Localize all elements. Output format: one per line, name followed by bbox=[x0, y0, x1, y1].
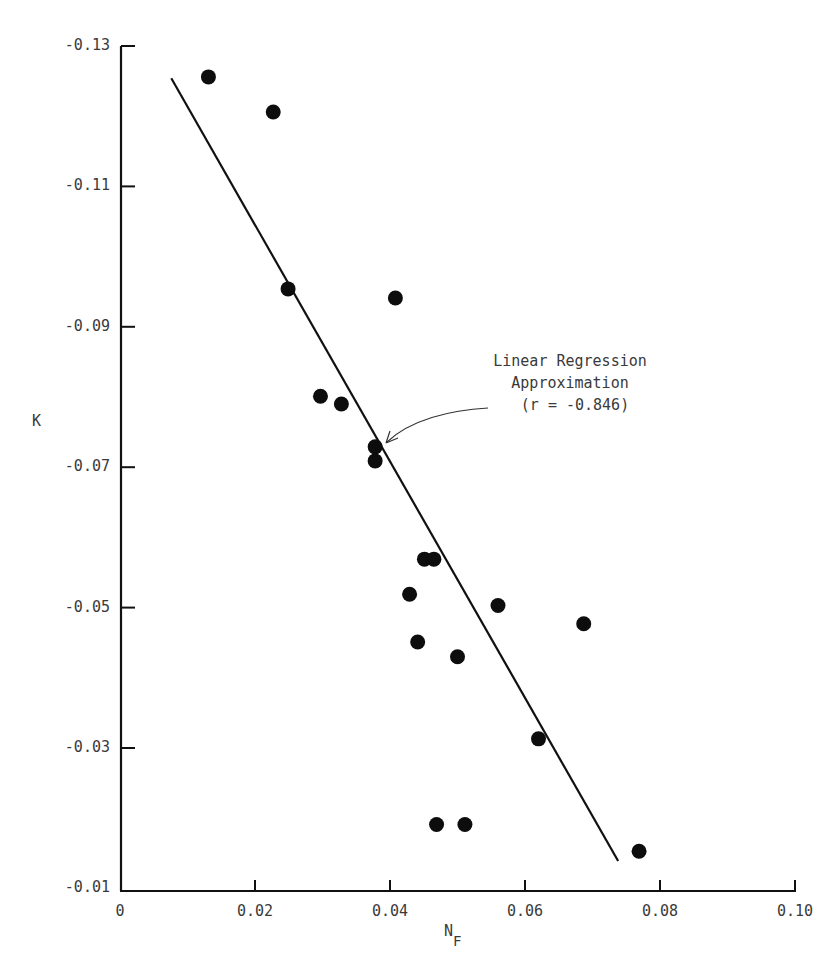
x-tick-label: 0 bbox=[90, 902, 150, 920]
data-point bbox=[368, 453, 383, 468]
data-point bbox=[450, 649, 465, 664]
data-point bbox=[531, 731, 546, 746]
x-tick-label: 0.02 bbox=[225, 902, 285, 920]
data-point bbox=[368, 439, 383, 454]
data-point bbox=[266, 104, 281, 119]
y-tick-label: -0.03 bbox=[30, 738, 110, 756]
data-point bbox=[426, 552, 441, 567]
regression-line-segment bbox=[171, 78, 618, 861]
y-tick-label: -0.07 bbox=[30, 457, 110, 475]
data-points bbox=[201, 69, 647, 858]
data-point bbox=[632, 844, 647, 859]
annotation-line-3: (r = -0.846) bbox=[470, 394, 670, 416]
x-axis-title: NF bbox=[444, 922, 461, 940]
y-tick-label: -0.05 bbox=[30, 598, 110, 616]
plot-area bbox=[0, 0, 832, 978]
x-axis-title-main: N bbox=[444, 922, 453, 940]
y-axis-title: K bbox=[32, 412, 41, 430]
data-point bbox=[313, 389, 328, 404]
y-tick-label: -0.13 bbox=[30, 36, 110, 54]
x-tick-label: 0.04 bbox=[360, 902, 420, 920]
scatter-chart: -0.13-0.11-0.09-0.07-0.05-0.03-0.01 00.0… bbox=[0, 0, 832, 978]
data-point bbox=[410, 634, 425, 649]
x-tick-label: 0.06 bbox=[495, 902, 555, 920]
y-tick-label: -0.01 bbox=[30, 878, 110, 896]
regression-annotation: Linear Regression Approximation (r = -0.… bbox=[470, 350, 670, 416]
data-point bbox=[388, 291, 403, 306]
x-axis-title-sub: F bbox=[453, 933, 461, 949]
x-tick-label: 0.10 bbox=[765, 902, 825, 920]
data-point bbox=[457, 817, 472, 832]
y-tick-label: -0.09 bbox=[30, 317, 110, 335]
data-point bbox=[281, 281, 296, 296]
data-point bbox=[402, 587, 417, 602]
x-tick-label: 0.08 bbox=[630, 902, 690, 920]
x-axis-ticks bbox=[255, 880, 795, 891]
y-axis-ticks bbox=[121, 46, 135, 748]
annotation-line-1: Linear Regression bbox=[470, 350, 670, 372]
annotation-line-2: Approximation bbox=[470, 372, 670, 394]
data-point bbox=[576, 616, 591, 631]
y-tick-label: -0.11 bbox=[30, 176, 110, 194]
data-point bbox=[334, 397, 349, 412]
data-point bbox=[491, 598, 506, 613]
regression-line bbox=[171, 78, 618, 861]
data-point bbox=[201, 69, 216, 84]
data-point bbox=[429, 817, 444, 832]
